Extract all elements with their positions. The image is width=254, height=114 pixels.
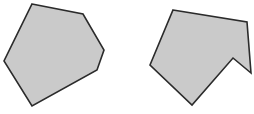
right-notched-polygon-shape xyxy=(150,10,251,105)
figure-canvas xyxy=(0,0,254,114)
polygons-figure xyxy=(0,0,254,114)
left-convex-polygon-shape xyxy=(4,4,104,106)
